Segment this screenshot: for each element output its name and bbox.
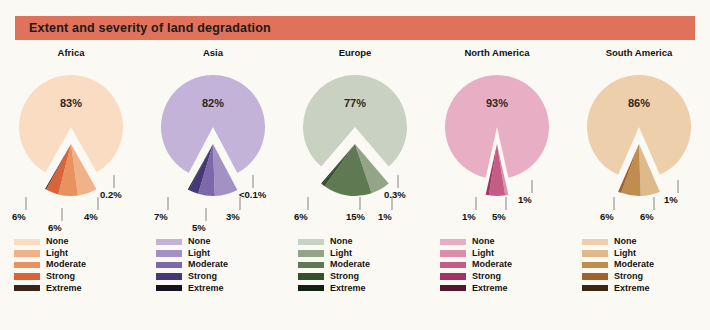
legend-item: None: [156, 236, 228, 248]
legend-item: None: [582, 236, 654, 248]
legend-label: Extreme: [614, 283, 650, 294]
slice-callout-label: 6%: [640, 211, 654, 222]
legend-swatch: [298, 262, 324, 269]
chart-panels: Africa83%6%6%4%0.2%NoneLightModerateStro…: [0, 44, 710, 330]
slice-callout-label: <0.1%: [239, 189, 266, 200]
legend-item: Extreme: [582, 282, 654, 294]
legend-swatch: [298, 285, 324, 292]
title-bar: Extent and severity of land degradation: [15, 16, 695, 40]
legend-item: Light: [156, 248, 228, 260]
slice-callout-label: 3%: [226, 211, 240, 222]
legend-item: Extreme: [14, 282, 86, 294]
legend-label: Moderate: [614, 259, 654, 270]
legend-label: None: [472, 236, 495, 247]
legend-label: Strong: [614, 271, 643, 282]
legend-item: Extreme: [440, 282, 512, 294]
legend-label: Light: [614, 248, 636, 259]
slice-callout-label: 7%: [154, 211, 168, 222]
legend-swatch: [156, 262, 182, 269]
slice-callout-label: 15%: [346, 211, 365, 222]
chart-legend: NoneLightModerateStrongExtreme: [14, 236, 86, 294]
legend-label: Strong: [46, 271, 75, 282]
pie-chart: 77%6%15%1%0.3%: [284, 59, 426, 234]
legend-swatch: [582, 250, 608, 257]
legend-item: Light: [298, 248, 370, 260]
legend-label: Strong: [188, 271, 217, 282]
slice-callout-label: 1%: [518, 194, 532, 205]
legend-label: Moderate: [188, 259, 228, 270]
slice-callout-label: 6%: [600, 211, 614, 222]
slice-callout-label: 5%: [492, 211, 506, 222]
page-title: Extent and severity of land degradation: [29, 21, 271, 35]
chart-legend: NoneLightModerateStrongExtreme: [582, 236, 654, 294]
chart-title: South America: [568, 47, 710, 59]
legend-item: Light: [440, 248, 512, 260]
slice-callout-label: 1%: [664, 194, 678, 205]
slice-value-none: 83%: [60, 97, 82, 109]
legend-item: None: [298, 236, 370, 248]
legend-item: Extreme: [156, 282, 228, 294]
legend-label: Light: [46, 248, 68, 259]
slice-callout-label: 1%: [378, 211, 392, 222]
legend-swatch: [440, 250, 466, 257]
chart-panel: South America86%6%6%1%NoneLightModerateS…: [568, 44, 710, 330]
legend-label: Moderate: [46, 259, 86, 270]
chart-panel: Europe77%6%15%1%0.3%NoneLightModerateStr…: [284, 44, 426, 330]
legend-label: Light: [330, 248, 352, 259]
legend-item: Moderate: [14, 259, 86, 271]
legend-swatch: [582, 273, 608, 280]
chart-title: Asia: [142, 47, 284, 59]
pie-chart: 82%7%5%3%<0.1%: [142, 59, 284, 234]
legend-swatch: [582, 285, 608, 292]
legend-label: Extreme: [472, 283, 508, 294]
legend-label: Strong: [472, 271, 501, 282]
slice-value-none: 93%: [486, 97, 508, 109]
slice-callout-label: 6%: [12, 211, 26, 222]
chart-title: North America: [426, 47, 568, 59]
slice-callout-label: 0.3%: [384, 189, 406, 200]
pie-chart: 86%6%6%1%: [568, 59, 710, 234]
legend-label: None: [614, 236, 637, 247]
legend-swatch: [440, 285, 466, 292]
legend-item: Moderate: [298, 259, 370, 271]
legend-swatch: [440, 239, 466, 246]
legend-swatch: [14, 285, 40, 292]
chart-panel: North America93%1%5%1%NoneLightModerateS…: [426, 44, 568, 330]
chart-legend: NoneLightModerateStrongExtreme: [298, 236, 370, 294]
legend-swatch: [440, 262, 466, 269]
chart-legend: NoneLightModerateStrongExtreme: [156, 236, 228, 294]
slice-callout-label: 6%: [48, 222, 62, 233]
legend-swatch: [582, 262, 608, 269]
legend-item: Strong: [582, 271, 654, 283]
legend-label: Extreme: [330, 283, 366, 294]
slice-value-none: 82%: [202, 97, 224, 109]
chart-panel: Asia82%7%5%3%<0.1%NoneLightModerateStron…: [142, 44, 284, 330]
chart-panel: Africa83%6%6%4%0.2%NoneLightModerateStro…: [0, 44, 142, 330]
legend-label: Moderate: [472, 259, 512, 270]
slice-value-none: 86%: [628, 97, 650, 109]
legend-label: Strong: [330, 271, 359, 282]
legend-swatch: [14, 262, 40, 269]
infographic-root: Extent and severity of land degradation …: [0, 0, 710, 330]
legend-swatch: [298, 239, 324, 246]
legend-item: Strong: [156, 271, 228, 283]
legend-swatch: [298, 273, 324, 280]
legend-item: Moderate: [156, 259, 228, 271]
legend-item: Light: [14, 248, 86, 260]
legend-label: Moderate: [330, 259, 370, 270]
legend-swatch: [156, 285, 182, 292]
legend-item: Extreme: [298, 282, 370, 294]
legend-label: Extreme: [188, 283, 224, 294]
legend-label: None: [330, 236, 353, 247]
legend-item: Strong: [298, 271, 370, 283]
legend-swatch: [14, 273, 40, 280]
slice-callout-label: 4%: [84, 211, 98, 222]
legend-item: Strong: [14, 271, 86, 283]
slice-callout-label: 1%: [462, 211, 476, 222]
legend-label: Extreme: [46, 283, 82, 294]
legend-label: None: [46, 236, 69, 247]
legend-item: Moderate: [440, 259, 512, 271]
legend-swatch: [582, 239, 608, 246]
chart-title: Africa: [0, 47, 142, 59]
legend-item: Strong: [440, 271, 512, 283]
